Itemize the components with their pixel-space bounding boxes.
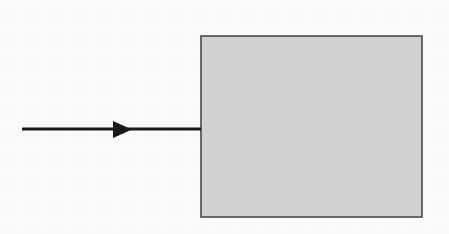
block-rectangle	[201, 36, 422, 217]
diagram-canvas	[0, 0, 449, 234]
diagram-figure	[0, 0, 449, 234]
